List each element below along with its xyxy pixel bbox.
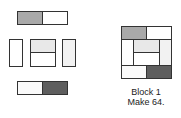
- block-top-gray: [121, 26, 147, 40]
- assembled-block: [121, 26, 172, 79]
- block-right-lightgray: [159, 39, 172, 66]
- piece-bottom-dark: [42, 81, 68, 95]
- piece-center-white: [30, 52, 56, 67]
- piece-left-white-tall: [9, 39, 23, 67]
- caption-quantity: Make 64.: [116, 97, 176, 107]
- piece-right-lightgray-tall: [62, 39, 76, 67]
- piece-bottom-white: [17, 81, 43, 95]
- block-bottom-dark: [146, 65, 172, 79]
- caption-block-name: Block 1: [116, 87, 176, 97]
- block-top-white: [146, 26, 172, 40]
- piece-top-gray: [17, 11, 43, 25]
- piece-center-lightgray: [30, 39, 56, 53]
- block-bottom-white: [121, 65, 147, 79]
- block-center-lightgray: [133, 39, 160, 53]
- block-center-white: [133, 52, 160, 66]
- piece-top-white: [42, 11, 68, 25]
